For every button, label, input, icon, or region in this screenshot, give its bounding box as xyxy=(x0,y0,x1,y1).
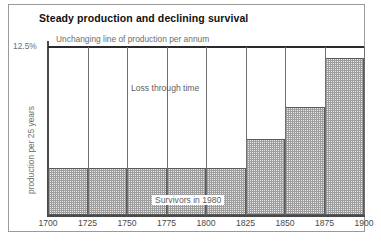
bar-1775-1800 xyxy=(167,168,207,215)
x-tick-label-1775: 1775 xyxy=(157,218,176,228)
x-tick-label-1825: 1825 xyxy=(236,218,255,228)
survivors-region-label: Survivors in 1980 xyxy=(152,195,224,205)
x-tick-label-1725: 1725 xyxy=(78,218,97,228)
x-tick-label-1900: 1900 xyxy=(354,218,373,228)
x-tick-1825 xyxy=(246,47,247,215)
x-tick-1750 xyxy=(127,47,128,215)
x-tick-label-1800: 1800 xyxy=(196,218,215,228)
x-tick-label-1850: 1850 xyxy=(275,218,294,228)
bar-1750-1775 xyxy=(127,168,167,215)
bar-1825-1850 xyxy=(246,139,286,215)
bar-1725-1750 xyxy=(88,168,128,215)
plot-area xyxy=(48,47,364,215)
loss-region-label: Loss through time xyxy=(131,83,199,93)
bar-1850-1875 xyxy=(285,107,325,215)
production-reference-label: Unchanging line of production per annum xyxy=(54,34,211,44)
bar-1800-1825 xyxy=(206,168,246,215)
x-tick-1800 xyxy=(206,47,207,215)
y-axis-top-tick-label: 12.5% xyxy=(13,41,37,51)
x-tick-1900 xyxy=(364,47,365,215)
bar-1875-1900 xyxy=(325,58,365,215)
chart-title: Steady production and declining survival xyxy=(39,12,248,24)
bar-1700-1725 xyxy=(48,168,88,215)
x-axis-line xyxy=(47,215,365,217)
y-axis-title: production per 25 years xyxy=(26,90,36,210)
x-tick-1775 xyxy=(167,47,168,215)
x-tick-1850 xyxy=(285,47,286,215)
x-tick-1725 xyxy=(88,47,89,215)
x-tick-label-1750: 1750 xyxy=(117,218,136,228)
x-tick-label-1700: 1700 xyxy=(38,218,57,228)
x-tick-1875 xyxy=(325,47,326,215)
x-tick-label-1875: 1875 xyxy=(315,218,334,228)
chart-frame: Steady production and declining survival… xyxy=(8,4,365,232)
